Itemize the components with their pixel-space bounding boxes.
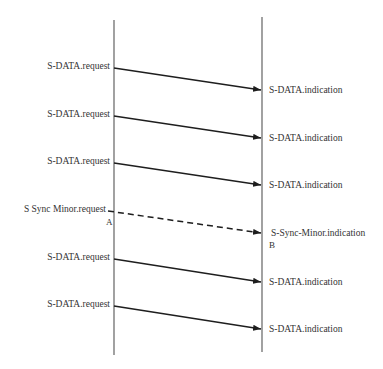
- data-arrow: [114, 306, 261, 329]
- sync-minor-arrow: [108, 211, 261, 233]
- data-arrow: [114, 259, 261, 282]
- indication-label: S-DATA.indication: [269, 85, 342, 96]
- request-label: S-DATA.request: [47, 109, 110, 120]
- marker-a: A: [106, 217, 113, 227]
- request-label: S-DATA.request: [47, 61, 110, 72]
- indication-label: S-Sync-Minor.indication: [271, 228, 365, 239]
- indication-label: S-DATA.indication: [269, 133, 342, 144]
- indication-label: S-DATA.indication: [269, 277, 342, 288]
- request-label: S-DATA.request: [47, 299, 110, 310]
- request-label: S-DATA.request: [47, 156, 110, 167]
- request-label: S Sync Minor.request: [24, 204, 106, 215]
- data-arrow: [114, 68, 261, 90]
- data-arrow: [114, 116, 261, 138]
- indication-label: S-DATA.indication: [269, 180, 342, 191]
- marker-b: B: [269, 240, 275, 250]
- data-arrow: [114, 163, 261, 185]
- request-label: S-DATA.request: [47, 252, 110, 263]
- indication-label: S-DATA.indication: [269, 324, 342, 335]
